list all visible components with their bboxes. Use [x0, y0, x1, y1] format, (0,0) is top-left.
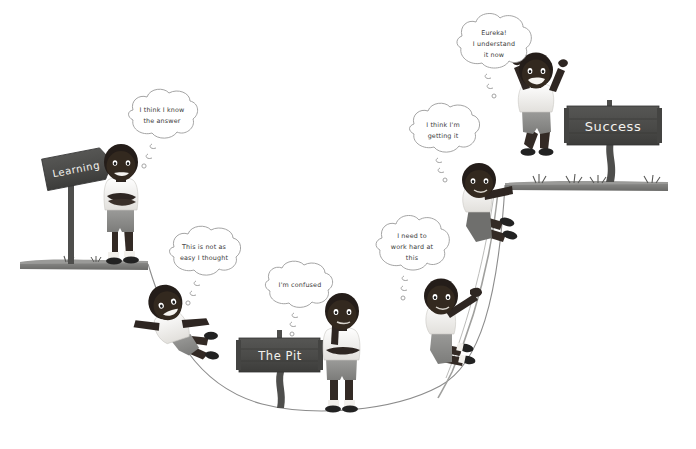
thought-2-line-2: easy I thought: [180, 254, 228, 262]
thought-1-line-1: I think I know: [140, 106, 185, 114]
thought-5-line-1: I think I'm: [426, 121, 460, 129]
sign-the-pit: The Pit: [236, 330, 323, 408]
character-pulling-onto-ledge: [462, 163, 518, 242]
thought-5-line-2: getting it: [428, 132, 459, 140]
thought-6-line-2: I understand: [473, 40, 515, 48]
character-climbing: [424, 279, 482, 367]
thought-4-line-3: this: [406, 254, 419, 262]
thought-bubble-6: Eureka! I understand it now: [457, 13, 531, 98]
thought-6-line-3: it now: [484, 51, 504, 59]
thought-3-line-1: I'm confused: [279, 281, 322, 289]
sign-success: Success: [564, 100, 662, 182]
character-falling: [124, 273, 227, 382]
character-celebrating: [512, 53, 568, 156]
character-confused: [323, 293, 360, 413]
character-standing-confident: [104, 144, 139, 265]
sign-the-pit-label: The Pit: [257, 349, 302, 363]
thought-6-line-1: Eureka!: [481, 29, 507, 37]
thought-4-line-2: work hard at: [391, 243, 434, 251]
thought-bubble-1: I think I know the answer: [129, 89, 198, 168]
thought-2-line-1: This is not as: [181, 243, 227, 251]
learning-pit-illustration: Learning The Pit Success: [0, 0, 696, 449]
illustration-canvas: Learning The Pit Success: [0, 0, 696, 449]
right-ledge: [505, 174, 668, 191]
thought-4-line-1: I need to: [397, 232, 427, 240]
sign-success-label: Success: [585, 119, 642, 134]
thought-bubble-2: This is not as easy I thought: [170, 226, 241, 305]
thought-1-line-2: the answer: [143, 117, 180, 125]
thought-bubble-3: I'm confused: [265, 261, 332, 336]
